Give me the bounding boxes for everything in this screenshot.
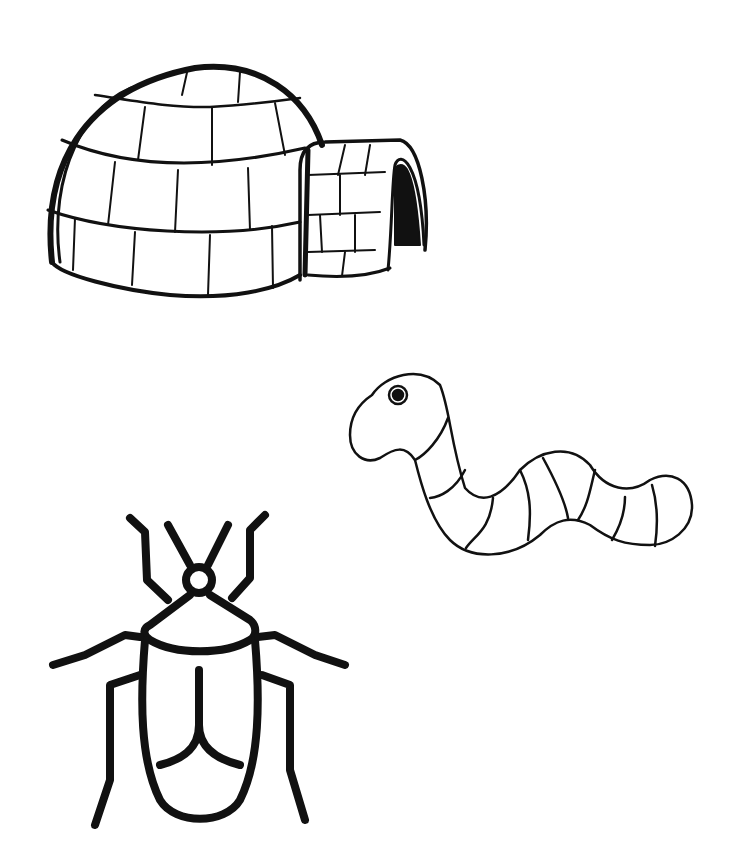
drawing-canvas bbox=[0, 0, 733, 858]
bug-drawing bbox=[53, 515, 345, 825]
worm-drawing bbox=[350, 374, 692, 554]
igloo-drawing bbox=[48, 67, 426, 296]
